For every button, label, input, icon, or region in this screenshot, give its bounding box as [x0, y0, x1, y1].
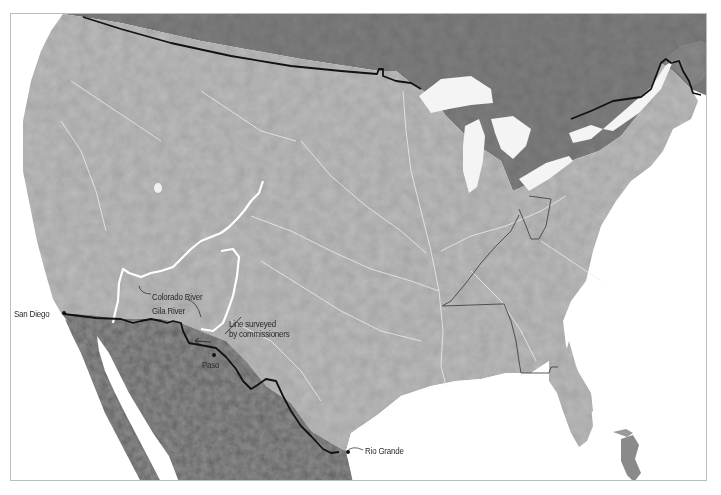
label-rio-grande: Rio Grande: [365, 446, 404, 456]
great-salt-lake: [154, 183, 162, 193]
label-gila-river: Gila River: [152, 306, 185, 316]
label-paso: Paso: [202, 360, 219, 370]
label-colorado-river: Colorado River: [152, 292, 202, 302]
label-san-diego: San Diego: [14, 309, 49, 319]
san-diego-marker: [62, 311, 66, 315]
rio-grande-marker: [346, 450, 350, 454]
relief-map: [11, 14, 707, 481]
label-by-commissioners: by commissioners: [229, 329, 290, 339]
map-frame: Colorado River Gila River Line surveyed …: [10, 13, 707, 481]
label-line-surveyed: Line surveyed: [229, 319, 276, 329]
paso-marker: [212, 353, 216, 357]
